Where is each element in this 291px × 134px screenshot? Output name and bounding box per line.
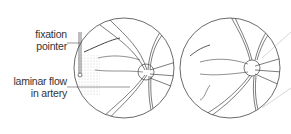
left-fundus (78, 20, 176, 125)
right-fundus (190, 15, 282, 125)
right-fundus-outline (180, 18, 280, 118)
fundus-illustration (0, 0, 291, 134)
